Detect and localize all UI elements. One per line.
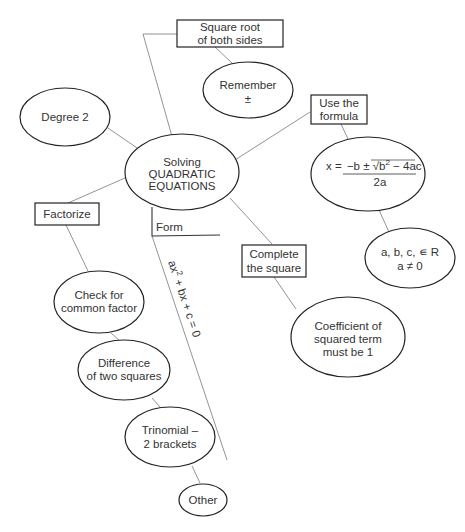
mind-map-canvas: Form ax2 + bx + c = 0 Square root of bot…	[0, 0, 465, 532]
node-difference-of-squares[interactable]: Difference of two squares	[78, 340, 170, 400]
edge-factorize-common-factor	[66, 225, 88, 271]
svg-text:Use the: Use the	[319, 97, 359, 109]
node-coefficient[interactable]: Coefficient of squared term must be 1	[291, 297, 405, 377]
node-other[interactable]: Other	[179, 484, 227, 516]
node-remember[interactable]: Remember ±	[203, 62, 293, 118]
edge-difference-trinomial	[152, 398, 160, 407]
node-common-factor[interactable]: Check for common factor	[54, 271, 144, 333]
svg-text:Remember: Remember	[220, 79, 277, 91]
node-square-root[interactable]: Square root of both sides	[177, 20, 283, 47]
svg-text:Solving: Solving	[163, 156, 201, 168]
svg-text:Factorize: Factorize	[43, 208, 90, 220]
edge-trinomial-other	[192, 466, 200, 483]
form-label: Form	[156, 221, 183, 233]
svg-text:Difference: Difference	[98, 357, 150, 369]
svg-text:Complete: Complete	[249, 248, 298, 260]
svg-text:EQUATIONS: EQUATIONS	[149, 180, 216, 192]
edge-square-root-remember	[215, 47, 232, 63]
svg-text:ax2 + bx + c = 0: ax2 + bx + c = 0	[166, 258, 205, 339]
svg-text:QUADRATIC: QUADRATIC	[149, 168, 216, 180]
edge-center-complete-square	[230, 198, 272, 244]
svg-text:of both sides: of both sides	[197, 34, 262, 46]
standard-form-label: ax2 + bx + c = 0	[166, 258, 205, 339]
svg-text:±: ±	[245, 93, 251, 105]
edge-center-degree2	[108, 128, 140, 150]
svg-text:2 brackets: 2 brackets	[143, 438, 196, 450]
node-factorize[interactable]: Factorize	[35, 203, 99, 225]
svg-text:Trinomial –: Trinomial –	[142, 424, 199, 436]
svg-text:must be 1: must be 1	[323, 346, 374, 358]
edge-center-use-formula	[235, 112, 310, 160]
edge-use-formula-formula	[341, 124, 348, 139]
node-quadratic-formula[interactable]: x = −b ± √b2 − 4ac 2a	[311, 137, 425, 211]
svg-text:formula: formula	[320, 110, 359, 122]
svg-text:2a: 2a	[374, 176, 387, 188]
svg-text:Square root: Square root	[200, 21, 261, 33]
edge-formula-conditions	[379, 210, 389, 232]
node-conditions[interactable]: a, b, c, ∊ R a ≠ 0	[365, 228, 455, 288]
svg-text:common factor: common factor	[61, 302, 137, 314]
svg-text:a, b, c, ∊ R: a, b, c, ∊ R	[381, 246, 439, 258]
node-degree-2[interactable]: Degree 2	[20, 88, 110, 146]
node-use-formula[interactable]: Use the formula	[311, 95, 367, 124]
svg-text:the square: the square	[247, 262, 301, 274]
svg-text:of two squares: of two squares	[87, 370, 162, 382]
edge-center-square-root	[143, 34, 177, 140]
svg-text:Other: Other	[189, 494, 218, 506]
edge-center-factorize	[68, 178, 125, 203]
node-trinomial[interactable]: Trinomial – 2 brackets	[125, 407, 215, 467]
node-complete-square[interactable]: Complete the square	[242, 245, 306, 277]
svg-text:Check for: Check for	[74, 289, 123, 301]
node-central-solving-quadratic-equations[interactable]: Solving QUADRATIC EQUATIONS	[125, 134, 239, 210]
svg-text:squared term: squared term	[314, 333, 382, 345]
svg-text:Coefficient of: Coefficient of	[315, 320, 383, 332]
svg-text:a ≠ 0: a ≠ 0	[397, 260, 423, 272]
svg-text:Degree 2: Degree 2	[41, 111, 88, 123]
edge-complete-square-coefficient	[274, 277, 296, 309]
